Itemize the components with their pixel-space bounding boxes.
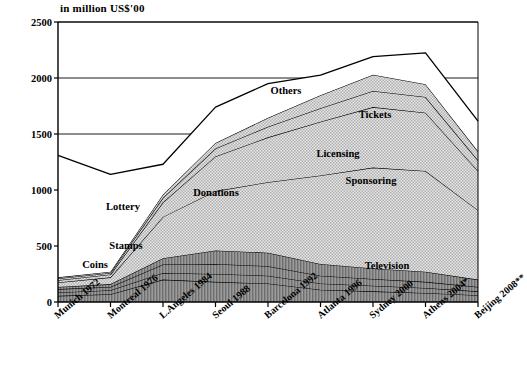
series-label-stamps: Stamps — [109, 240, 142, 251]
x-tick-label-5: Atlanta 1996 — [315, 277, 364, 321]
x-tick-label-0: Munich 1972 — [52, 276, 102, 320]
series-label-lottery: Lottery — [106, 201, 140, 212]
x-tick-label-3: Seoul 1988 — [210, 283, 252, 321]
series-label-sponsoring: Sponsoring — [346, 175, 397, 186]
x-tick-label-4: Barcelona 1992 — [262, 270, 319, 321]
series-label-licensing: Licensing — [316, 148, 359, 159]
series-label-tickets: Tickets — [359, 109, 391, 120]
x-tick-label-7: Athens 2004* — [420, 275, 471, 320]
series-label-coins: Coins — [82, 259, 108, 270]
series-label-television: Television — [365, 260, 410, 271]
x-tick-label-8: Beijing 2008** — [472, 271, 527, 320]
x-tick-label-1: Montreal 1976 — [105, 272, 160, 320]
series-label-others: Others — [271, 85, 302, 96]
x-tick-label-6: Sydney 2000 — [367, 278, 415, 321]
series-label-donations: Donations — [193, 187, 239, 198]
x-tick-label-2: L.Angeles 1984 — [157, 270, 214, 320]
